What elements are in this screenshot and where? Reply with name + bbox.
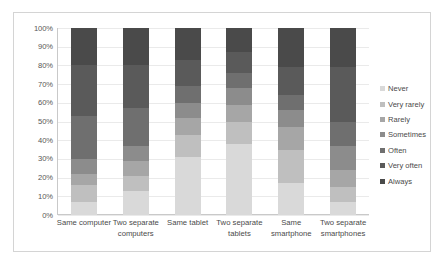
y-axis-tick-label: 30% bbox=[19, 154, 53, 163]
legend-swatch-icon bbox=[380, 163, 385, 168]
bar-column[interactable] bbox=[278, 28, 304, 215]
y-axis-tick-label: 100% bbox=[19, 24, 53, 33]
bar-segment[interactable] bbox=[175, 157, 201, 215]
bar-column[interactable] bbox=[71, 28, 97, 215]
bar-segment[interactable] bbox=[226, 122, 252, 144]
bar-segment[interactable] bbox=[278, 110, 304, 127]
bar-segment[interactable] bbox=[330, 122, 356, 146]
bar-segment[interactable] bbox=[71, 116, 97, 159]
bar-segment[interactable] bbox=[71, 159, 97, 174]
y-axis-tick-label: 20% bbox=[19, 173, 53, 182]
bar-segment[interactable] bbox=[226, 73, 252, 88]
legend-item-label: Often bbox=[388, 146, 407, 155]
bars-group bbox=[58, 28, 369, 215]
bar-segment[interactable] bbox=[123, 108, 149, 145]
bar-segment[interactable] bbox=[175, 86, 201, 103]
bar-segment[interactable] bbox=[278, 150, 304, 184]
bar-segment[interactable] bbox=[123, 161, 149, 176]
legend-swatch-icon bbox=[380, 148, 385, 153]
bar-segment[interactable] bbox=[330, 146, 356, 170]
bar-segment[interactable] bbox=[123, 65, 149, 108]
bar-segment[interactable] bbox=[123, 28, 149, 65]
bar-segment[interactable] bbox=[226, 52, 252, 73]
legend-swatch-icon bbox=[380, 86, 385, 91]
y-axis-tick-label: 70% bbox=[19, 80, 53, 89]
legend-item[interactable]: Always bbox=[380, 173, 444, 188]
legend-item-label: Never bbox=[388, 84, 408, 93]
bar-segment[interactable] bbox=[278, 183, 304, 215]
legend-item-label: Always bbox=[388, 177, 412, 186]
legend: NeverVery rarelyRarelySometimesOftenVery… bbox=[380, 81, 444, 189]
y-axis-tick-label: 10% bbox=[19, 192, 53, 201]
legend-item[interactable]: Very often bbox=[380, 158, 444, 173]
legend-item[interactable]: Sometimes bbox=[380, 127, 444, 142]
bar-segment[interactable] bbox=[226, 88, 252, 105]
bar-segment[interactable] bbox=[123, 176, 149, 191]
legend-item-label: Rarely bbox=[388, 115, 410, 124]
bar-segment[interactable] bbox=[278, 28, 304, 67]
bar-segment[interactable] bbox=[330, 170, 356, 187]
bar-segment[interactable] bbox=[278, 127, 304, 149]
bar-segment[interactable] bbox=[123, 191, 149, 215]
bar-column[interactable] bbox=[175, 28, 201, 215]
bar-segment[interactable] bbox=[71, 185, 97, 202]
bar-column[interactable] bbox=[123, 28, 149, 215]
y-axis-tick-label: 0% bbox=[19, 211, 53, 220]
legend-item[interactable]: Very rarely bbox=[380, 96, 444, 111]
bar-column[interactable] bbox=[226, 28, 252, 215]
gridline bbox=[58, 215, 369, 216]
bar-segment[interactable] bbox=[330, 187, 356, 202]
legend-swatch-icon bbox=[380, 117, 385, 122]
legend-item[interactable]: Rarely bbox=[380, 112, 444, 127]
y-axis-tick-label: 40% bbox=[19, 136, 53, 145]
bar-segment[interactable] bbox=[330, 67, 356, 121]
bar-segment[interactable] bbox=[123, 146, 149, 161]
legend-item[interactable]: Never bbox=[380, 81, 444, 96]
y-axis-tick-label: 60% bbox=[19, 98, 53, 107]
legend-swatch-icon bbox=[380, 132, 385, 137]
bar-segment[interactable] bbox=[226, 105, 252, 122]
bar-segment[interactable] bbox=[71, 65, 97, 115]
bar-segment[interactable] bbox=[71, 174, 97, 185]
bar-segment[interactable] bbox=[226, 28, 252, 52]
bar-segment[interactable] bbox=[175, 135, 201, 157]
bar-segment[interactable] bbox=[71, 28, 97, 65]
legend-item[interactable]: Often bbox=[380, 143, 444, 158]
bar-segment[interactable] bbox=[175, 103, 201, 118]
bar-segment[interactable] bbox=[330, 28, 356, 67]
y-axis-tick-label: 80% bbox=[19, 61, 53, 70]
legend-item-label: Very often bbox=[388, 161, 422, 170]
legend-item-label: Very rarely bbox=[388, 100, 424, 109]
bar-segment[interactable] bbox=[278, 67, 304, 95]
legend-swatch-icon bbox=[380, 179, 385, 184]
legend-item-label: Sometimes bbox=[388, 130, 426, 139]
bar-column[interactable] bbox=[330, 28, 356, 215]
chart-frame: 100%90%80%70%60%50%40%30%20%10%0% Same c… bbox=[13, 12, 431, 252]
bar-segment[interactable] bbox=[71, 202, 97, 215]
x-axis-tick-label: Two separate smartphones bbox=[312, 218, 374, 239]
y-axis-tick-label: 90% bbox=[19, 42, 53, 51]
bar-segment[interactable] bbox=[175, 28, 201, 60]
bar-segment[interactable] bbox=[175, 118, 201, 135]
bar-segment[interactable] bbox=[330, 202, 356, 215]
bar-segment[interactable] bbox=[226, 144, 252, 215]
legend-swatch-icon bbox=[380, 102, 385, 107]
bar-segment[interactable] bbox=[278, 95, 304, 110]
bar-segment[interactable] bbox=[175, 60, 201, 86]
y-axis-tick-label: 50% bbox=[19, 117, 53, 126]
plot-area bbox=[58, 28, 369, 215]
